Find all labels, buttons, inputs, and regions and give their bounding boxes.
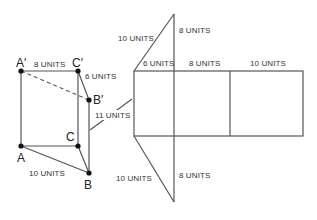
net-rect-width-1: 6 UNITS <box>143 59 174 68</box>
measure-bottom-edge: 10 UNITS <box>29 169 65 178</box>
measure-height: 11 UNITS <box>95 111 130 120</box>
hidden-edge-a-prime-b-prime <box>21 71 89 100</box>
point-b <box>86 170 91 175</box>
label-a: A <box>17 151 25 165</box>
net-bottom-triangle-hypotenuse <box>134 136 174 202</box>
net-rect-width-3: 10 UNITS <box>250 59 286 68</box>
label-b-prime: B′ <box>93 93 104 107</box>
net-rectangles-outline <box>134 71 303 136</box>
triangular-prism: A′ C′ B′ A C B 8 UNITS 6 UNITS 10 UNITS <box>16 56 116 192</box>
point-a <box>18 143 23 148</box>
measure-top-right-edge: 6 UNITS <box>85 72 116 81</box>
net-bottom-hypotenuse-label: 10 UNITS <box>116 174 152 183</box>
label-b: B <box>84 178 92 192</box>
net-top-hypotenuse-label: 10 UNITS <box>118 34 154 43</box>
net-rect-width-2: 8 UNITS <box>189 59 220 68</box>
point-c <box>75 143 80 148</box>
prism-net: 10 UNITS 8 UNITS 6 UNITS 8 UNITS 10 UNIT… <box>116 14 303 202</box>
diagram-canvas: A′ C′ B′ A C B 8 UNITS 6 UNITS 10 UNITS … <box>0 0 317 220</box>
net-top-leg-label: 8 UNITS <box>179 26 210 35</box>
label-c: C <box>66 130 75 144</box>
label-a-prime: A′ <box>16 56 27 70</box>
measure-top-edge: 8 UNITS <box>34 60 65 69</box>
label-c-prime: C′ <box>72 56 84 70</box>
net-bottom-leg-label: 8 UNITS <box>179 171 210 180</box>
point-b-prime <box>86 97 91 102</box>
